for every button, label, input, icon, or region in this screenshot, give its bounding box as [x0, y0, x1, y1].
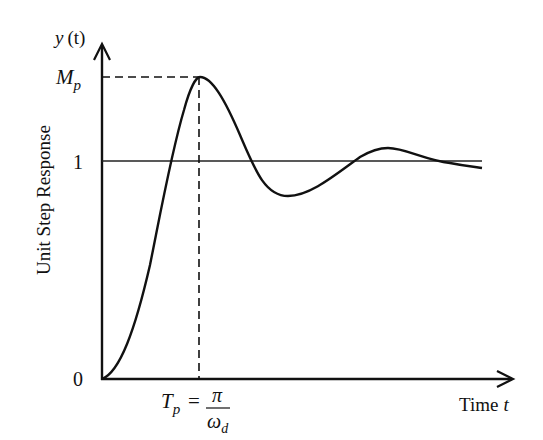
y-tick-zero: 0	[73, 368, 83, 390]
x-axis-title: Timet	[459, 394, 509, 415]
y-axis-title: Unit Step Response	[33, 125, 54, 275]
equals-sign: =	[188, 389, 200, 413]
peak-time-label: Tp	[161, 389, 181, 417]
response-curve	[102, 77, 482, 379]
pi-numerator: π	[212, 384, 223, 406]
y-tick-one: 1	[73, 151, 83, 173]
y-axis-symbol: y(t)	[53, 27, 85, 49]
omega-denominator: ωd	[207, 410, 229, 436]
peak-value-label: Mp	[55, 65, 82, 93]
step-response-chart: y(t) Mp 1 0 Unit Step Response Tp = π ωd…	[0, 0, 543, 440]
